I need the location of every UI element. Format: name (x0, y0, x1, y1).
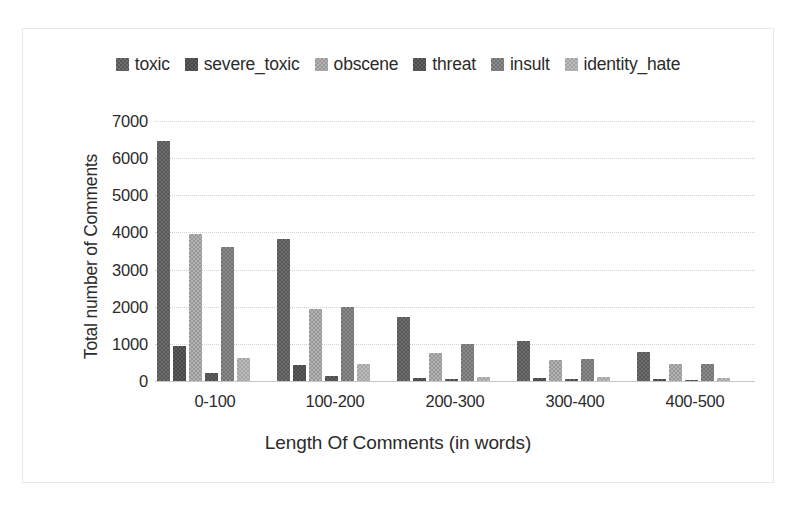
bar-threat-400-500[interactable] (685, 380, 698, 382)
bar-toxic-400-500[interactable] (637, 352, 650, 381)
y-axis-tick-label: 4000 (86, 223, 148, 242)
x-axis-tick-label: 300-400 (515, 392, 635, 411)
bar-insult-100-200[interactable] (341, 307, 354, 381)
y-axis-tick-labels: 70006000500040003000200010000 (86, 111, 148, 391)
bar-toxic-0-100[interactable] (157, 141, 170, 381)
y-axis-tick-label: 3000 (86, 260, 148, 279)
y-axis-tick-label: 0 (86, 372, 148, 391)
bar-threat-300-400[interactable] (565, 379, 578, 381)
x-axis-tick-label: 400-500 (635, 392, 755, 411)
chart-figure: toxicsevere_toxicobscenethreatinsultiden… (0, 0, 803, 521)
bar-obscene-400-500[interactable] (669, 364, 682, 381)
bar-severe_toxic-200-300[interactable] (413, 378, 426, 381)
bar-identity_hate-300-400[interactable] (597, 377, 610, 381)
bar-severe_toxic-0-100[interactable] (173, 346, 186, 381)
bar-severe_toxic-300-400[interactable] (533, 378, 546, 381)
y-axis-tick-label: 7000 (86, 112, 148, 131)
bar-severe_toxic-100-200[interactable] (293, 365, 306, 381)
bar-severe_toxic-400-500[interactable] (653, 379, 666, 381)
bar-identity_hate-200-300[interactable] (477, 377, 490, 381)
bar-toxic-200-300[interactable] (397, 317, 410, 381)
x-axis-tick-label: 0-100 (155, 392, 275, 411)
bar-threat-0-100[interactable] (205, 373, 218, 381)
bar-toxic-100-200[interactable] (277, 239, 290, 381)
bar-group-0-100 (157, 121, 250, 381)
bar-identity_hate-400-500[interactable] (717, 378, 730, 381)
bar-obscene-300-400[interactable] (549, 360, 562, 381)
bar-threat-100-200[interactable] (325, 376, 338, 381)
y-axis-tick-label: 1000 (86, 334, 148, 353)
gridline (155, 381, 755, 382)
bar-insult-0-100[interactable] (221, 247, 234, 381)
y-axis-tick-label: 5000 (86, 186, 148, 205)
bar-group-400-500 (637, 121, 730, 381)
bar-obscene-100-200[interactable] (309, 309, 322, 381)
bar-threat-200-300[interactable] (445, 379, 458, 381)
bar-identity_hate-0-100[interactable] (237, 358, 250, 381)
y-axis-tick-label: 6000 (86, 149, 148, 168)
x-axis-tick-label: 200-300 (395, 392, 515, 411)
y-axis-tick-label: 2000 (86, 297, 148, 316)
x-axis-tick-label: 100-200 (275, 392, 395, 411)
chart-plot-area (155, 121, 755, 381)
x-axis-tick-labels: 0-100100-200200-300300-400400-500 (155, 392, 755, 418)
bar-insult-300-400[interactable] (581, 359, 594, 381)
x-axis-title: Length Of Comments (in words) (22, 432, 774, 454)
bar-obscene-200-300[interactable] (429, 353, 442, 381)
bar-toxic-300-400[interactable] (517, 341, 530, 381)
bar-insult-200-300[interactable] (461, 344, 474, 381)
bar-group-200-300 (397, 121, 490, 381)
bar-identity_hate-100-200[interactable] (357, 364, 370, 381)
bar-insult-400-500[interactable] (701, 364, 714, 381)
bar-group-300-400 (517, 121, 610, 381)
bar-obscene-0-100[interactable] (189, 234, 202, 381)
bar-group-100-200 (277, 121, 370, 381)
